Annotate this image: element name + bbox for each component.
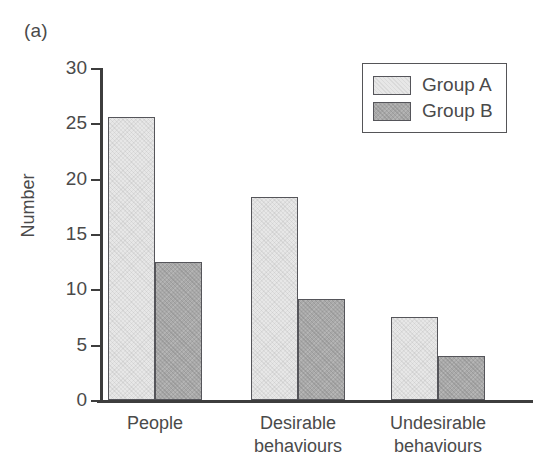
y-tick-label: 20 — [66, 168, 87, 190]
bar — [155, 262, 202, 400]
y-tick-mark — [91, 289, 100, 291]
legend-swatch — [373, 102, 411, 121]
bar — [391, 317, 438, 400]
y-tick-mark — [91, 179, 100, 181]
category-label: Undesirablebehaviours — [390, 412, 486, 458]
y-axis-label: Number — [18, 156, 39, 256]
bar — [298, 299, 345, 400]
legend-label: Group A — [422, 74, 492, 96]
bar — [251, 197, 298, 400]
category-label: People — [127, 412, 183, 435]
category-label-line: behaviours — [254, 435, 342, 458]
y-tick-label: 25 — [66, 112, 87, 134]
legend-label: Group B — [422, 100, 493, 122]
x-axis-line — [97, 400, 533, 403]
legend-item: Group A — [373, 72, 493, 98]
category-label-line: Undesirable — [390, 412, 486, 435]
legend-item: Group B — [373, 98, 493, 124]
legend: Group AGroup B — [362, 63, 507, 133]
bar — [438, 356, 485, 400]
y-tick-label: 30 — [66, 57, 87, 79]
y-tick-mark — [91, 234, 100, 236]
y-tick-label: 10 — [66, 278, 87, 300]
y-tick-label: 5 — [76, 334, 87, 356]
bar — [108, 117, 155, 400]
category-label-line: behaviours — [390, 435, 486, 458]
y-tick-mark — [91, 68, 100, 70]
y-tick-mark — [91, 345, 100, 347]
category-label: Desirablebehaviours — [254, 412, 342, 458]
legend-swatch — [373, 76, 411, 95]
y-tick-mark — [91, 400, 100, 402]
y-tick-mark — [91, 123, 100, 125]
y-tick-label: 15 — [66, 223, 87, 245]
panel-label: (a) — [24, 20, 48, 42]
category-label-line: Desirable — [254, 412, 342, 435]
y-tick-label: 0 — [76, 389, 87, 411]
category-label-line: People — [127, 412, 183, 435]
bar-chart-figure: (a) Number 051015202530 PeopleDesirableb… — [0, 0, 556, 469]
y-axis-line — [100, 68, 103, 400]
